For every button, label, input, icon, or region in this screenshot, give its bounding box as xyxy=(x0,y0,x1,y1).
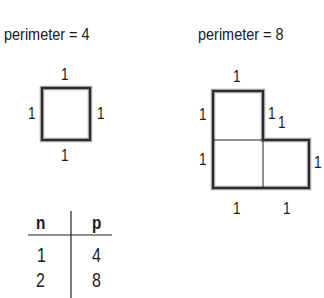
unit-square xyxy=(42,88,90,140)
square-label-top: 1 xyxy=(61,66,69,83)
table-cell-p-1: 4 xyxy=(92,245,101,265)
l-label-left-upper: 1 xyxy=(199,106,207,123)
l-label-inner-horizontal: 1 xyxy=(278,114,286,131)
table-header-n: n xyxy=(36,214,45,232)
square-label-left: 1 xyxy=(28,105,36,122)
l-label-bottom-right: 1 xyxy=(283,200,291,217)
table-header-p: p xyxy=(92,214,101,232)
table-cell-p-2: 8 xyxy=(92,270,101,290)
table-cell-n-2: 2 xyxy=(36,270,45,290)
l-label-right: 1 xyxy=(314,154,322,171)
l-label-bottom-left: 1 xyxy=(233,200,241,217)
shapes-drawing xyxy=(0,0,324,298)
figure-2-title: perimeter = 8 xyxy=(198,26,284,43)
l-label-top: 1 xyxy=(233,68,241,85)
l-label-inner-vertical: 1 xyxy=(268,105,276,122)
l-label-left-lower: 1 xyxy=(199,151,207,168)
l-shape xyxy=(213,91,309,188)
table-cell-n-1: 1 xyxy=(37,245,46,265)
square-label-bottom: 1 xyxy=(61,147,69,164)
square-label-right: 1 xyxy=(97,105,105,122)
